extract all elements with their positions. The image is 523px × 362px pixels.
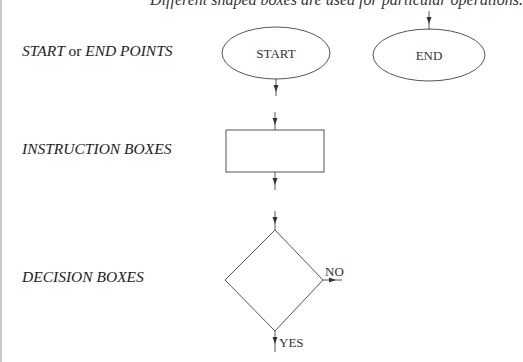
instruction-box [226, 112, 324, 190]
decision-in-arrowhead [273, 217, 278, 224]
decision-diamond [225, 230, 323, 331]
decision-box: NO YES [225, 211, 344, 352]
start-text: START [256, 46, 295, 61]
decision-no-label: NO [325, 264, 344, 279]
instruction-in-arrowhead [273, 118, 278, 125]
instruction-rect [226, 130, 324, 172]
decision-yes-label: YES [279, 335, 304, 350]
decision-yes-arrowhead [273, 337, 278, 344]
start-terminal: START [222, 27, 330, 96]
instruction-out-arrowhead [273, 178, 278, 185]
end-text: END [416, 48, 443, 63]
end-in-arrowhead [427, 17, 432, 24]
end-terminal: END [373, 11, 485, 81]
start-out-arrowhead [274, 85, 279, 92]
